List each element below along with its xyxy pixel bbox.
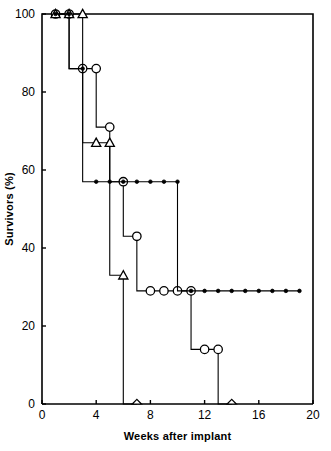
marker-filled-dot	[67, 12, 71, 16]
marker-open-circle	[200, 345, 208, 353]
marker-open-circle	[146, 287, 154, 295]
y-tick-label: 20	[22, 319, 36, 333]
axis-tick-labels: 048121620020406080100	[15, 7, 320, 422]
marker-open-triangle-terminal	[132, 399, 141, 404]
data-series-group	[51, 9, 301, 404]
series-line	[56, 14, 300, 291]
x-tick-label: 12	[198, 408, 212, 422]
plot-canvas: 048121620020406080100 Weeks after implan…	[0, 0, 331, 451]
marker-filled-dot	[189, 289, 193, 293]
survival-chart-figure: 048121620020406080100 Weeks after implan…	[0, 0, 331, 451]
marker-open-circle	[214, 345, 222, 353]
y-axis-title: Survivors (%)	[3, 172, 15, 246]
marker-filled-dot	[230, 289, 234, 293]
x-axis-title: Weeks after implant	[124, 430, 232, 442]
marker-open-circle	[160, 287, 168, 295]
x-tick-label: 0	[39, 408, 46, 422]
x-tick-label: 8	[147, 408, 154, 422]
y-tick-label: 0	[28, 397, 35, 411]
marker-filled-dot	[162, 180, 166, 184]
series-filled-dot-series	[54, 12, 302, 293]
marker-open-circle	[92, 64, 100, 72]
axis-titles: Weeks after implantSurvivors (%)	[3, 172, 231, 442]
marker-filled-dot	[149, 180, 153, 184]
marker-filled-dot	[298, 289, 302, 293]
y-tick-label: 60	[22, 163, 36, 177]
marker-filled-dot	[135, 180, 139, 184]
marker-filled-dot	[271, 289, 275, 293]
marker-filled-dot	[176, 180, 180, 184]
y-tick-label: 80	[22, 85, 36, 99]
x-tick-label: 4	[93, 408, 100, 422]
x-tick-label: 16	[252, 408, 266, 422]
marker-filled-dot	[108, 180, 112, 184]
marker-filled-dot	[81, 67, 85, 71]
marker-open-circle-terminal	[227, 399, 236, 404]
x-tick-label: 20	[306, 408, 320, 422]
marker-filled-dot	[94, 180, 98, 184]
marker-filled-dot	[122, 180, 126, 184]
marker-filled-dot	[243, 289, 247, 293]
marker-filled-dot	[257, 289, 261, 293]
marker-filled-dot	[216, 289, 220, 293]
marker-open-circle	[106, 123, 114, 131]
marker-filled-dot	[284, 289, 288, 293]
marker-open-circle	[133, 232, 141, 240]
marker-filled-dot	[54, 12, 58, 16]
marker-filled-dot	[203, 289, 207, 293]
y-tick-label: 100	[15, 7, 35, 21]
y-tick-label: 40	[22, 241, 36, 255]
